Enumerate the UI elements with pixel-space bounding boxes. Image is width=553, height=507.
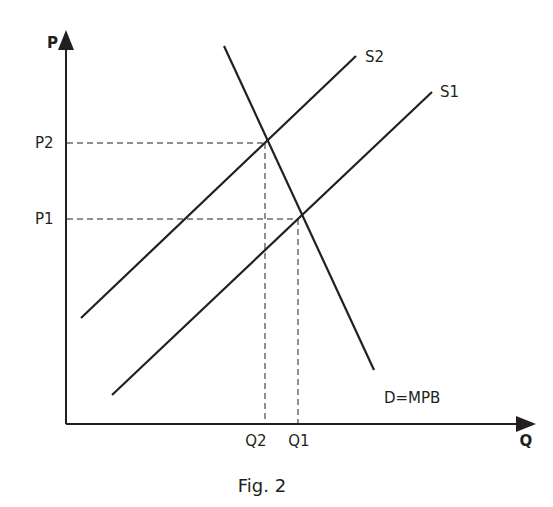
x-axis-label: Q xyxy=(520,432,533,450)
demand-label: D=MPB xyxy=(384,389,440,407)
s2-label: S2 xyxy=(365,48,384,66)
supply-curve-s2 xyxy=(81,56,356,318)
q2-label: Q2 xyxy=(245,432,266,450)
demand-curve xyxy=(224,46,374,370)
q1-label: Q1 xyxy=(288,432,309,450)
guide-lines xyxy=(67,143,298,423)
p2-label: P2 xyxy=(35,134,54,152)
figure-caption: Fig. 2 xyxy=(238,475,286,496)
supply-demand-diagram: P Q P2 P1 Q2 Q1 S2 S1 D=MPB Fig. 2 xyxy=(0,0,553,507)
s1-label: S1 xyxy=(440,83,459,101)
y-axis-label: P xyxy=(47,34,58,52)
p1-label: P1 xyxy=(35,210,54,228)
